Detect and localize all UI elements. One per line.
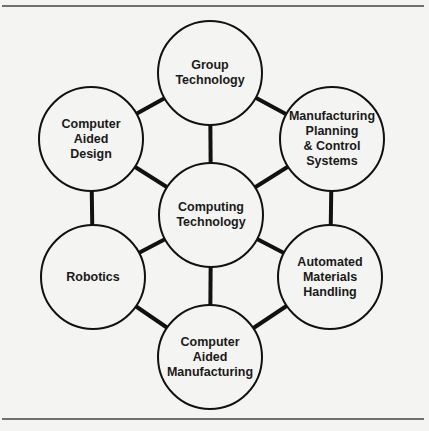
node-label-group: Group Technology	[158, 21, 262, 125]
node-label-amh: Automated Materials Handling	[278, 225, 382, 329]
node-label-cad: Computer Aided Design	[39, 87, 143, 191]
node-label-computing: Computing Technology	[159, 163, 263, 267]
node-label-robotics: Robotics	[41, 225, 145, 329]
node-label-mpcs: Manufacturing Planning & Control Systems	[280, 87, 384, 191]
node-label-cam: Computer Aided Manufacturing	[158, 305, 262, 409]
